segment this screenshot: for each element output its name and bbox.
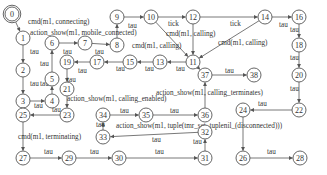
- state-node-1: 1: [16, 31, 30, 45]
- state-node-37: 37: [198, 68, 212, 82]
- state-node-36: 36: [198, 108, 212, 122]
- edge-11-37: [198, 67, 200, 69]
- edge-label: tau: [176, 65, 185, 73]
- state-id: 18: [295, 41, 303, 50]
- state-node-16: 16: [292, 10, 306, 24]
- state-transition-diagram: cmd(m1, connecting)action_show(m1, mobil…: [0, 0, 327, 175]
- state-id: 36: [201, 111, 209, 120]
- state-id: 25: [19, 111, 27, 120]
- state-id: 33: [99, 133, 107, 142]
- state-id: 12: [189, 13, 197, 22]
- state-node-14: 14: [258, 10, 272, 24]
- state-node-27: 27: [16, 151, 30, 165]
- edge-label: tau: [152, 136, 161, 144]
- state-id: 30: [115, 154, 123, 163]
- edge-label: tau: [193, 138, 202, 146]
- state-node-4: 4: [45, 94, 59, 108]
- state-node-8: 8: [110, 38, 124, 52]
- state-node-7: 7: [78, 36, 92, 50]
- edge-label: tau: [34, 102, 43, 110]
- state-node-25: 25: [16, 108, 30, 122]
- state-node-5: 5: [45, 72, 59, 86]
- state-id: 13: [156, 58, 164, 67]
- state-node-3: 3: [16, 94, 30, 108]
- edge-label: tau: [30, 80, 39, 88]
- state-node-17: 17: [90, 55, 104, 69]
- edge-label: tau: [290, 26, 299, 34]
- edge-label: tau: [290, 54, 299, 62]
- edge-label: cmd(m1, connecting): [28, 18, 90, 26]
- state-node-38: 38: [247, 68, 261, 82]
- state-node-12: 12: [186, 10, 200, 24]
- state-id: 22: [295, 106, 303, 115]
- edge-label: action_show(m1, calling_terminates): [156, 89, 264, 97]
- state-node-23: 23: [60, 108, 74, 122]
- state-id: 17: [93, 58, 101, 67]
- state-id: 4: [50, 97, 54, 106]
- state-id: 23: [63, 111, 71, 120]
- state-node-9: 9: [110, 10, 124, 24]
- edge-label: cmd(m1, calling): [132, 42, 182, 50]
- state-id: 14: [261, 13, 269, 22]
- state-id: 21: [63, 85, 71, 94]
- edge-label: tau: [225, 67, 234, 75]
- state-id: 32: [201, 128, 209, 137]
- state-node-32: 32: [198, 125, 212, 139]
- state-node-35: 35: [139, 108, 153, 122]
- state-node-28: 28: [293, 151, 307, 165]
- edge-label: tau: [120, 107, 129, 115]
- state-id: 11: [189, 58, 197, 67]
- state-id: 34: [99, 111, 107, 120]
- edge-label: tau: [44, 148, 53, 156]
- state-node-13: 13: [153, 55, 167, 69]
- edge-label: tau: [155, 148, 164, 156]
- state-node-24: 24: [236, 103, 250, 117]
- state-node-10: 10: [144, 10, 158, 24]
- state-id: 10: [147, 13, 155, 22]
- state-node-30: 30: [112, 151, 126, 165]
- edge-label: tau: [290, 85, 299, 93]
- state-id: 26: [239, 154, 247, 163]
- state-id: 9: [115, 13, 119, 22]
- state-node-2: 2: [16, 63, 30, 77]
- state-node-31: 31: [198, 151, 212, 165]
- edge-7-8: [92, 43, 110, 44]
- state-node-22: 22: [292, 103, 306, 117]
- edge-label: action_show(m1, calling_enabled): [67, 95, 167, 103]
- edge-label: tau: [116, 65, 125, 73]
- state-node-21: 21: [60, 82, 74, 96]
- edge-label: cmd(m1, calling): [218, 39, 268, 47]
- edge-label: tau: [40, 60, 49, 68]
- state-node-34: 34: [96, 108, 110, 122]
- state-node-20: 20: [292, 68, 306, 82]
- state-node-29: 29: [62, 151, 76, 165]
- state-id: 37: [201, 71, 209, 80]
- state-id: 31: [201, 154, 209, 163]
- state-id: 19: [63, 58, 71, 67]
- state-node-15: 15: [123, 55, 137, 69]
- state-id: 29: [65, 154, 73, 163]
- state-id: 1: [21, 34, 25, 43]
- edge-label: tau: [128, 22, 137, 30]
- state-node-0: 0: [3, 5, 21, 23]
- edge-label: tau: [90, 148, 99, 156]
- state-id: 0: [10, 10, 14, 19]
- state-node-26: 26: [236, 151, 250, 165]
- state-node-33: 33: [96, 130, 110, 144]
- edge-label: cmd(m1, calling): [166, 30, 216, 38]
- state-id: 16: [295, 13, 303, 22]
- state-id: 3: [21, 97, 25, 106]
- state-id: 35: [142, 111, 150, 120]
- edge-label: tick: [168, 20, 179, 28]
- edge-label: tick: [230, 20, 241, 28]
- state-id: 20: [295, 71, 303, 80]
- state-id: 38: [250, 71, 258, 80]
- state-id: 8: [115, 41, 119, 50]
- edge-label: tau: [145, 65, 154, 73]
- state-id: 15: [126, 58, 134, 67]
- edge-label: tau: [170, 107, 179, 115]
- state-node-6: 6: [45, 36, 59, 50]
- state-node-19: 19: [60, 55, 74, 69]
- edge-label: tau: [30, 48, 39, 56]
- edge-label: tau: [267, 148, 276, 156]
